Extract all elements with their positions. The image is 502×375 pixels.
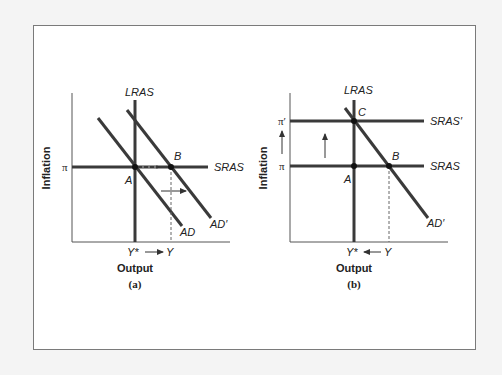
panel-a: LRAS B A SRAS AD AD′ π Y* Y Output (a) I… bbox=[40, 86, 245, 291]
y-axis-label: Inflation bbox=[257, 146, 269, 189]
point-b bbox=[168, 164, 174, 170]
ad-prime-line bbox=[345, 108, 428, 218]
sras-prime-label: SRAS′ bbox=[430, 115, 463, 127]
sras-label: SRAS bbox=[430, 160, 461, 172]
sras-label: SRAS bbox=[214, 161, 245, 173]
x-axis-label: Output bbox=[336, 262, 372, 274]
lras-label: LRAS bbox=[344, 84, 373, 96]
point-a-label: A bbox=[343, 173, 351, 185]
pi-prime-tick: π′ bbox=[278, 115, 286, 127]
ad-line bbox=[98, 118, 182, 226]
y-star-tick: Y* bbox=[127, 246, 139, 258]
y-tick: Y bbox=[384, 246, 392, 258]
point-c-label: C bbox=[358, 106, 366, 118]
point-b-label: B bbox=[392, 150, 399, 162]
point-c bbox=[351, 118, 357, 124]
lras-label: LRAS bbox=[125, 86, 154, 98]
pi-tick: π bbox=[279, 160, 285, 172]
panel-b: LRAS C B A SRAS′ SRAS AD′ π′ π Y* Y Outp… bbox=[257, 84, 463, 291]
ad-prime-line bbox=[127, 110, 211, 218]
y-axis-label: Inflation bbox=[40, 146, 52, 189]
ad-prime-label: AD′ bbox=[209, 218, 228, 230]
panel-caption: (b) bbox=[347, 278, 361, 291]
ad-label: AD bbox=[179, 226, 195, 238]
x-axis-label: Output bbox=[117, 262, 153, 274]
y-tick: Y bbox=[166, 246, 174, 258]
point-a-label: A bbox=[124, 174, 132, 186]
ad-prime-label: AD′ bbox=[426, 217, 445, 229]
point-a bbox=[132, 164, 138, 170]
panel-caption: (a) bbox=[129, 278, 142, 291]
figure-svg: LRAS B A SRAS AD AD′ π Y* Y Output (a) I… bbox=[0, 0, 502, 375]
point-b bbox=[386, 163, 392, 169]
point-b-label: B bbox=[174, 150, 181, 162]
pi-tick: π bbox=[62, 161, 68, 173]
point-a bbox=[351, 163, 357, 169]
y-star-tick: Y* bbox=[346, 246, 358, 258]
